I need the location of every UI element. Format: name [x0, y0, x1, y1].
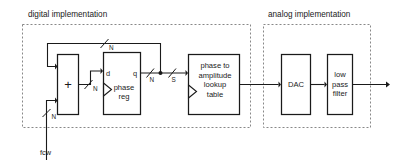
bus-width-q-out: N — [150, 76, 155, 83]
analog-implementation-group — [264, 25, 371, 128]
phasereg-label-line2: reg — [119, 92, 130, 101]
input-signal-label: fcw — [40, 148, 52, 157]
lookup-label-line3: lookup — [204, 80, 226, 89]
bus-width-fcw: N — [52, 113, 57, 120]
phasereg-label-line1: phase — [114, 83, 135, 92]
dac-label: DAC — [288, 80, 305, 89]
bus-width-s: S — [172, 76, 176, 83]
bus-width-feedback: N — [109, 44, 114, 51]
arrowhead-output — [386, 82, 390, 88]
bus-width-adder-out: N — [93, 85, 98, 92]
digital-implementation-label: digital implementation — [28, 10, 108, 19]
arrowhead-dac-in — [279, 82, 282, 88]
lookup-label-line1: phase to — [200, 61, 229, 70]
figure-canvas: digital implementation analog implementa… — [0, 0, 400, 166]
arrowhead-lpf-in — [325, 82, 328, 88]
phasereg-port-q: q — [133, 69, 137, 78]
block-diagram-svg: digital implementation analog implementa… — [0, 0, 400, 166]
lookup-label-line4: table — [207, 90, 223, 99]
lookup-label-line2: amplitude — [199, 71, 232, 80]
phasereg-port-d: d — [106, 69, 110, 78]
analog-implementation-label: analog implementation — [268, 10, 351, 19]
lpf-label-line2: pass — [332, 80, 348, 89]
arrowhead-phasereg-d — [101, 68, 104, 74]
wire-adder-to-phasereg — [79, 71, 101, 85]
arrowhead-lookup-in — [186, 70, 189, 76]
lpf-label-line3: filter — [333, 89, 348, 98]
lpf-label-line1: low — [334, 70, 346, 79]
adder-label: + — [64, 77, 72, 92]
junction-node-q — [159, 71, 163, 75]
